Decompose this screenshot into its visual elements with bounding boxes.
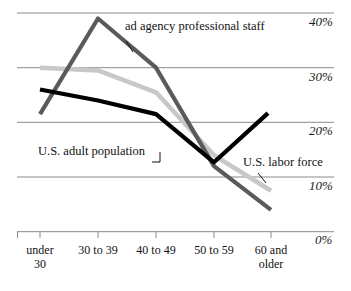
x-axis-label-40-to-49: 40 to 49 — [126, 243, 186, 257]
x-axis-label-30-to-39: 30 to 39 — [68, 243, 128, 257]
x-axis-label-under-30-line2: 30 — [10, 257, 70, 271]
line-chart: 40% 30% 20% 10% 0% under 30 30 to 39 40 … — [0, 0, 351, 291]
x-axis — [17, 232, 334, 238]
x-axis-label-under-30: under 30 — [10, 243, 70, 271]
x-axis-label-50-to-59-line1: 50 to 59 — [184, 243, 244, 257]
x-axis-label-50-to-59: 50 to 59 — [184, 243, 244, 257]
x-axis-label-60-and-older: 60 and older — [241, 243, 301, 271]
y-axis-label-40: 40% — [309, 14, 333, 30]
x-axis-label-40-to-49-line1: 40 to 49 — [126, 243, 186, 257]
x-axis-label-60-and-older-line1: 60 and — [241, 243, 301, 257]
y-axis-label-30: 30% — [309, 69, 333, 85]
series-line-us-labor-force — [40, 68, 271, 191]
leader-line-us-adult-population — [152, 152, 160, 162]
y-axis-label-0: 0% — [315, 232, 332, 248]
x-axis-label-30-to-39-line1: 30 to 39 — [68, 243, 128, 257]
y-axis-label-20: 20% — [309, 123, 333, 139]
series-annotation-ad-agency: ad agency professional staff — [125, 19, 265, 34]
x-axis-label-60-and-older-line2: older — [241, 257, 301, 271]
series-annotation-us-adult-population: U.S. adult population — [38, 144, 145, 159]
x-axis-label-under-30-line1: under — [10, 243, 70, 257]
y-axis-label-10: 10% — [309, 178, 333, 194]
series-annotation-us-labor-force: U.S. labor force — [243, 155, 323, 170]
